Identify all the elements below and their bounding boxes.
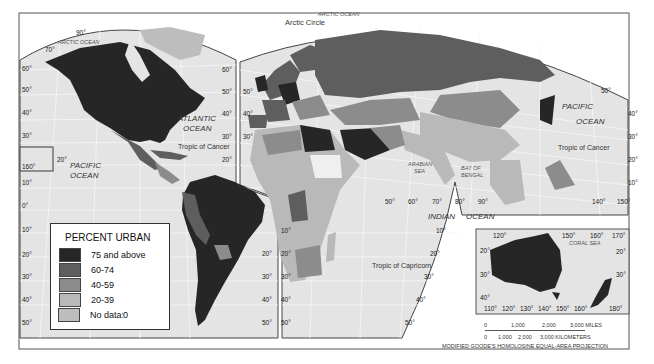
deg: 20° xyxy=(222,157,232,164)
deg: 150° xyxy=(617,199,630,206)
legend-swatch xyxy=(59,263,81,277)
deg: 50° xyxy=(281,320,291,327)
world-urban-map: ARCTIC OCEAN ARCTIC OCEAN Arctic Circle … xyxy=(0,0,654,364)
label-arctic-circle: Arctic Circle xyxy=(285,19,325,27)
deg: 20° xyxy=(430,251,440,258)
deg: 110° xyxy=(484,306,497,313)
deg: 10° xyxy=(22,227,32,234)
deg: 160° xyxy=(22,164,35,171)
label-bengal: BENGAL xyxy=(461,173,483,179)
deg: 30° xyxy=(281,274,291,281)
deg: 150° xyxy=(556,306,569,313)
deg: 50° xyxy=(262,320,272,327)
deg: 20° xyxy=(616,249,626,256)
label-tropic-capricorn: Tropic of Capricorn xyxy=(372,262,431,269)
deg: 40° xyxy=(243,111,253,118)
label-atlantic-ocean: OCEAN xyxy=(183,125,211,133)
deg: 30° xyxy=(480,272,490,279)
deg: 0° xyxy=(22,203,28,210)
legend-nodata: No data xyxy=(58,308,122,322)
deg: 40° xyxy=(628,111,638,118)
deg: 40° xyxy=(22,297,32,304)
legend-swatch xyxy=(59,248,81,262)
label-arabian: ARABIAN xyxy=(408,162,432,168)
deg: 10° xyxy=(22,180,32,187)
label-coral-sea: CORAL SEA xyxy=(569,241,600,247)
deg: 120° xyxy=(502,306,515,313)
legend-swatch xyxy=(59,293,81,307)
legend-swatch-nodata xyxy=(58,308,80,322)
label-tropic-cancer-west: Tropic of Cancer xyxy=(178,143,229,150)
label-pacific-west: PACIFIC xyxy=(70,162,101,170)
deg: 30° xyxy=(22,274,32,281)
legend-item: 60-74 xyxy=(59,263,114,277)
deg: 30° xyxy=(628,134,638,141)
deg: 160° xyxy=(590,233,603,240)
legend-item: 40-59 xyxy=(59,278,114,292)
deg: 130° xyxy=(520,306,533,313)
projection-note: MODIFIED GOODE'S HOMOLOSINE EQUAL-AREA P… xyxy=(442,343,608,349)
deg: 60° xyxy=(222,67,232,74)
label-atlantic: ATLANTIC xyxy=(178,115,216,123)
deg: 90° xyxy=(76,30,86,37)
deg: 70° xyxy=(432,199,442,206)
deg: 50° xyxy=(385,199,395,206)
legend-swatch xyxy=(59,278,81,292)
deg: 10° xyxy=(281,228,291,235)
deg: 40° xyxy=(22,110,32,117)
deg: 20° xyxy=(480,248,490,255)
deg: 50° xyxy=(22,320,32,327)
deg: 60° xyxy=(408,199,418,206)
deg: 30° xyxy=(424,274,434,281)
deg: 120° xyxy=(493,233,506,240)
deg: 30° xyxy=(222,134,232,141)
label-indian-ocean: OCEAN xyxy=(466,213,494,221)
deg: 90° xyxy=(478,199,488,206)
deg: 30° xyxy=(262,274,272,281)
label-pacific-east-ocean: OCEAN xyxy=(576,118,604,126)
deg: 140° xyxy=(538,306,551,313)
deg: 20° xyxy=(57,157,67,164)
label-pacific-east: PACIFIC xyxy=(562,103,593,111)
deg: 20° xyxy=(22,252,32,259)
deg: 30° xyxy=(243,134,253,141)
legend-item: 20-39 xyxy=(59,293,114,307)
deg: 40° xyxy=(222,111,232,118)
deg: 160° xyxy=(574,306,587,313)
deg: 20° xyxy=(281,251,291,258)
deg: 140° xyxy=(592,199,605,206)
deg: 10° xyxy=(628,180,638,187)
label-arctic-ocean-west: ARCTIC OCEAN xyxy=(58,40,100,46)
deg: 50° xyxy=(22,87,32,94)
deg: 0° xyxy=(228,199,234,206)
label-tropic-cancer-east: Tropic of Cancer xyxy=(558,144,609,151)
deg: 50° xyxy=(601,88,611,95)
deg: 50° xyxy=(243,89,253,96)
deg: 150° xyxy=(562,233,575,240)
deg: 40° xyxy=(281,297,291,304)
deg: 180° xyxy=(609,306,622,313)
legend-item: 75 and above xyxy=(59,248,146,262)
deg: 40° xyxy=(416,297,426,304)
deg: 80° xyxy=(455,199,465,206)
deg: 40° xyxy=(480,295,490,302)
deg: 40° xyxy=(262,297,272,304)
deg: 50° xyxy=(222,89,232,96)
deg: 10° xyxy=(436,228,446,235)
deg: 70° xyxy=(45,47,55,54)
label-pacific-west-ocean: OCEAN xyxy=(70,172,98,180)
deg: 20° xyxy=(262,251,272,258)
deg: 30° xyxy=(616,272,626,279)
deg: 170° xyxy=(612,233,625,240)
deg: 50° xyxy=(405,320,415,327)
label-arabian-sea: SEA xyxy=(414,169,425,175)
label-indian: INDIAN xyxy=(428,213,455,221)
label-arctic-ocean-east: ARCTIC OCEAN xyxy=(318,12,360,18)
legend-title: PERCENT URBAN xyxy=(65,232,150,243)
deg: 20° xyxy=(628,157,638,164)
deg: 60° xyxy=(22,66,32,73)
deg: 30° xyxy=(22,133,32,140)
label-bay-of: BAY OF xyxy=(461,166,481,172)
